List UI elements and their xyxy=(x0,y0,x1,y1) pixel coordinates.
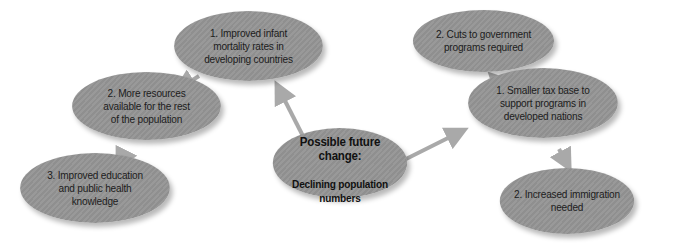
node-improved-education-label: 3. Improved education and public health … xyxy=(41,169,148,208)
node-more-resources-label: 2. More resources available for the rest… xyxy=(97,87,195,126)
center-title: Possible future change: xyxy=(279,135,402,163)
node-center-declining-population: Possible future change: Declining popula… xyxy=(273,128,407,198)
center-label: Possible future change: Declining popula… xyxy=(273,121,407,205)
node-smaller-tax-base-label: 1. Smaller tax base to support programs … xyxy=(491,84,596,123)
node-increased-immigration: 2. Increased immigration needed xyxy=(500,168,634,234)
node-improved-education: 3. Improved education and public health … xyxy=(20,153,170,223)
node-cuts-government: 2. Cuts to government programs required xyxy=(413,10,554,72)
node-increased-immigration-label: 2. Increased immigration needed xyxy=(508,188,625,214)
node-infant-mortality-label: 1. Improved infant mortality rates in de… xyxy=(198,27,298,66)
node-cuts-government-label: 2. Cuts to government programs required xyxy=(430,28,537,54)
arrow-center-to-tax-base xyxy=(406,133,458,159)
center-subtitle: Declining population numbers xyxy=(292,178,388,204)
node-more-resources: 2. More resources available for the rest… xyxy=(72,72,221,140)
population-change-diagram: 1. Improved infant mortality rates in de… xyxy=(0,0,682,250)
arrow-tax-base-to-immigration xyxy=(559,149,566,162)
node-smaller-tax-base: 1. Smaller tax base to support programs … xyxy=(468,68,618,138)
node-infant-mortality: 1. Improved infant mortality rates in de… xyxy=(174,11,323,81)
